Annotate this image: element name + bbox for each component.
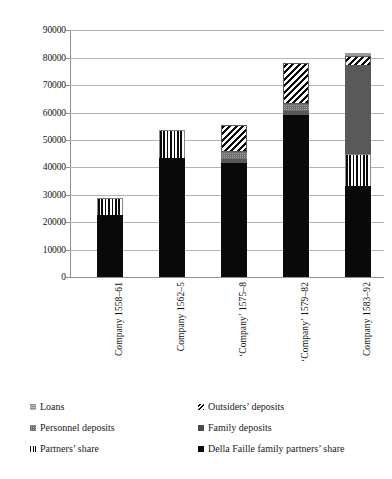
bar-segment-light-gray-hatch (221, 152, 247, 159)
bar-segment-solid-black (159, 158, 185, 277)
y-tick-label: 80000 (43, 53, 66, 63)
stacked-bar-chart: 0 10000 20000 30000 40000 50000 60000 70… (0, 0, 392, 479)
bar-segment-solid-black (221, 163, 247, 277)
plot-area: 0 10000 20000 30000 40000 50000 60000 70… (0, 0, 392, 300)
y-tick-label: 10000 (43, 245, 66, 255)
diagonal-stripe-swatch-icon (198, 404, 204, 410)
legend-column-right: Outsiders’ deposits Family deposits Dell… (198, 396, 388, 459)
bar-3 (221, 125, 247, 277)
legend-item: Personnel deposits (30, 417, 195, 438)
light-gray-hatch-swatch-icon (30, 425, 36, 431)
vertical-stripe-swatch-icon (30, 446, 36, 452)
y-tick-label: 30000 (43, 190, 66, 200)
legend-item: Partners’ share (30, 438, 195, 459)
legend-label: Outsiders’ deposits (208, 401, 284, 412)
x-tick-label: Company 1562–5 (176, 282, 186, 351)
legend-label: Personnel deposits (40, 422, 115, 433)
y-tick-label: 70000 (43, 80, 66, 90)
legend-item: Della Faille family partners’ share (198, 438, 388, 459)
bar-5 (345, 53, 371, 277)
bar-segment-solid-black (283, 115, 309, 277)
bar-segment-diagonal-stripe (345, 56, 371, 66)
solid-black-swatch-icon (198, 446, 204, 452)
y-tick-label: 20000 (43, 217, 66, 227)
bar-segment-diagonal-stripe (283, 63, 309, 104)
y-tick-label: 60000 (43, 108, 66, 118)
bar-segment-light-gray-hatch (283, 104, 309, 111)
bar-segment-vertical-stripe (159, 130, 185, 157)
bar-2 (159, 130, 185, 277)
legend-item: Family deposits (198, 417, 388, 438)
legend-item: Loans (30, 396, 195, 417)
legend-label: Partners’ share (40, 443, 99, 454)
bar-segment-diagonal-stripe (221, 125, 247, 152)
y-tick-label: 40000 (43, 162, 66, 172)
bar-segment-solid-black (97, 215, 123, 277)
x-tick-label: ‘Company’ 1575–8 (238, 282, 248, 357)
bar-4 (283, 63, 309, 277)
legend-item: Outsiders’ deposits (198, 396, 388, 417)
y-tick-label: 50000 (43, 135, 66, 145)
legend-column-left: Loans Personnel deposits Partners’ share (30, 396, 195, 459)
chart-legend: Loans Personnel deposits Partners’ share… (0, 396, 392, 466)
solid-gray-swatch-icon (30, 404, 36, 410)
y-tick-label: 90000 (43, 25, 66, 35)
legend-label: Della Faille family partners’ share (208, 443, 344, 454)
dark-gray-swatch-icon (198, 425, 204, 431)
bar-1 (97, 198, 123, 277)
x-tick-label: Company 1583–92 (362, 282, 372, 356)
bar-segment-vertical-stripe (97, 198, 123, 214)
legend-label: Loans (40, 401, 64, 412)
bar-segment-solid-black (345, 186, 371, 277)
x-tick-label: ‘Company’ 1579–82 (300, 282, 310, 362)
bar-segment-dark-gray (345, 66, 371, 154)
x-tick-label: Company 1558–61 (114, 282, 124, 356)
x-axis-labels: Company 1558–61Company 1562–5‘Company’ 1… (70, 282, 384, 392)
y-axis-labels: 0 10000 20000 30000 40000 50000 60000 70… (0, 0, 70, 300)
legend-label: Family deposits (208, 422, 272, 433)
gridlines-group (70, 0, 384, 300)
bar-segment-vertical-stripe (345, 154, 371, 187)
bars-layer (70, 0, 384, 300)
